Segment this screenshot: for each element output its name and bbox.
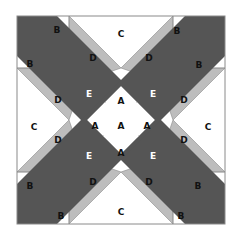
quilt-block-diagram: B B C B B D D D D D D D D C C C E E E E …	[0, 0, 235, 242]
label-b: B	[27, 181, 34, 191]
label-a: A	[118, 96, 125, 106]
label-b: B	[178, 211, 185, 221]
label-d: D	[54, 95, 61, 105]
label-b: B	[174, 26, 181, 36]
label-c: C	[205, 122, 212, 132]
label-c: C	[118, 29, 125, 39]
label-a: A	[118, 148, 125, 158]
label-c: C	[31, 122, 38, 132]
label-d: D	[180, 95, 187, 105]
label-d: D	[89, 177, 96, 187]
label-e: E	[150, 89, 156, 99]
label-a: A	[118, 121, 125, 131]
label-d: D	[89, 53, 96, 63]
label-e: E	[150, 151, 156, 161]
label-b: B	[27, 59, 34, 69]
label-b: B	[54, 25, 61, 35]
label-d: D	[145, 177, 152, 187]
label-d: D	[54, 135, 61, 145]
label-d: D	[180, 135, 187, 145]
label-e: E	[86, 151, 92, 161]
label-b: B	[195, 181, 202, 191]
label-b: B	[196, 60, 203, 70]
label-e: E	[86, 89, 92, 99]
label-c: C	[118, 207, 125, 217]
label-d: D	[145, 53, 152, 63]
label-a: A	[144, 121, 151, 131]
label-a: A	[92, 121, 99, 131]
label-b: B	[58, 211, 65, 221]
